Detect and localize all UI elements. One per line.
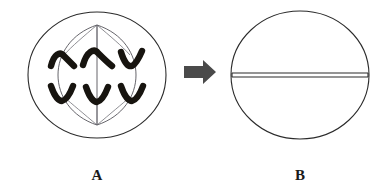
cell-a-group: A [28,12,166,183]
cell-a-label: A [91,167,102,183]
cell-b-label: B [295,167,305,183]
cell-division-diagram: A B [0,0,389,195]
cell-b-group: B [231,11,369,183]
arrow-right-icon [184,60,216,84]
cell-b-membrane [231,11,369,139]
figure-root: A B [0,0,389,195]
transition-arrow [184,60,216,84]
